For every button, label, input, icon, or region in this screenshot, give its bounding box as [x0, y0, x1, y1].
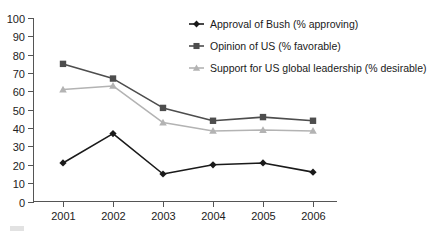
- chart-series: [59, 130, 316, 178]
- legend-label: Support for US global leadership (% desi…: [210, 62, 427, 74]
- data-point-square: [260, 114, 266, 120]
- data-point-diamond: [193, 21, 200, 28]
- y-tick-label: 60: [13, 86, 25, 98]
- y-tick-label: 10: [13, 178, 25, 190]
- data-point-diamond: [259, 159, 266, 166]
- y-tick-group: [28, 19, 34, 203]
- legend-item: Opinion of US (% favorable): [189, 40, 341, 52]
- x-tick-label: 2006: [301, 210, 325, 222]
- data-point-square: [60, 61, 66, 67]
- y-tick-label: 40: [13, 123, 25, 135]
- legend-label: Opinion of US (% favorable): [210, 40, 341, 52]
- y-tick-label-group: 0102030405060708090100: [7, 13, 25, 209]
- data-point-diamond: [209, 161, 216, 168]
- line-chart: 0102030405060708090100 20012002200320042…: [0, 0, 427, 239]
- y-tick-label: 100: [7, 13, 25, 25]
- data-point-square: [210, 118, 216, 124]
- data-point-square: [310, 118, 316, 124]
- series-group: [59, 61, 317, 178]
- y-tick-label: 30: [13, 141, 25, 153]
- chart-canvas: 0102030405060708090100 20012002200320042…: [0, 0, 427, 239]
- data-point-diamond: [59, 159, 66, 166]
- series-line: [63, 134, 313, 174]
- x-tick-group: [64, 202, 314, 207]
- x-tick-label: 2004: [201, 210, 225, 222]
- x-axis: 200120022003200420052006: [34, 202, 338, 222]
- series-line: [63, 86, 313, 131]
- legend-label: Approval of Bush (% approving): [210, 18, 358, 30]
- y-tick-label: 20: [13, 160, 25, 172]
- legend-item: Support for US global leadership (% desi…: [189, 62, 427, 74]
- x-tick-label: 2003: [151, 210, 175, 222]
- y-tick-label: 0: [19, 197, 25, 209]
- data-point-diamond: [309, 169, 316, 176]
- data-point-square: [160, 105, 166, 111]
- y-axis: 0102030405060708090100: [7, 13, 34, 209]
- legend-item: Approval of Bush (% approving): [189, 18, 358, 30]
- scan-artifact: [10, 226, 24, 231]
- chart-legend: Approval of Bush (% approving)Opinion of…: [189, 18, 427, 74]
- x-tick-label: 2005: [251, 210, 275, 222]
- data-point-square: [193, 43, 199, 49]
- x-tick-label: 2001: [51, 210, 75, 222]
- y-tick-label: 70: [13, 68, 25, 80]
- y-tick-label: 50: [13, 105, 25, 117]
- x-tick-label: 2002: [101, 210, 125, 222]
- y-tick-label: 90: [13, 31, 25, 43]
- y-tick-label: 80: [13, 50, 25, 62]
- data-point-square: [110, 75, 116, 81]
- x-tick-label-group: 200120022003200420052006: [51, 210, 325, 222]
- chart-series: [59, 82, 317, 134]
